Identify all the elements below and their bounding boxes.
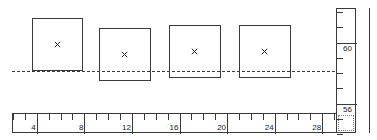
v-ruler-minor-tick — [337, 134, 343, 135]
h-ruler-minor-tick — [25, 114, 26, 120]
h-ruler-minor-tick — [287, 114, 288, 120]
h-ruler-minor-tick — [144, 114, 145, 120]
vertical-ruler-outer-edge — [369, 8, 370, 133]
h-ruler-minor-tick — [156, 114, 157, 120]
box-4-center-marker — [261, 48, 268, 55]
ruler-corner-box — [338, 115, 354, 131]
h-ruler-major-tick — [37, 114, 38, 134]
v-ruler-minor-tick — [337, 12, 343, 13]
h-ruler-minor-tick — [72, 114, 73, 120]
h-ruler-tick-label: 12 — [109, 123, 131, 132]
v-ruler-minor-tick — [337, 73, 343, 74]
h-ruler-major-tick — [84, 114, 85, 134]
v-ruler-tick-label: 56 — [343, 105, 352, 114]
h-ruler-minor-tick — [49, 114, 50, 120]
v-ruler-minor-tick — [337, 27, 343, 28]
h-ruler-minor-tick — [191, 114, 192, 120]
v-ruler-tick-label: 60 — [343, 44, 352, 53]
h-ruler-minor-tick — [13, 114, 14, 120]
box-2-center-marker — [121, 51, 128, 58]
h-ruler-minor-tick — [96, 114, 97, 120]
reference-line-dashed — [12, 71, 345, 72]
h-ruler-minor-tick — [108, 114, 109, 120]
h-ruler-tick-label: 28 — [299, 123, 321, 132]
box-1-center-marker — [54, 41, 61, 48]
h-ruler-tick-label: 4 — [14, 123, 36, 132]
h-ruler-minor-tick — [334, 114, 335, 120]
h-ruler-minor-tick — [168, 114, 169, 120]
box-3-center-marker — [191, 48, 198, 55]
h-ruler-major-tick — [322, 114, 323, 134]
h-ruler-minor-tick — [263, 114, 264, 120]
h-ruler-tick-label: 24 — [252, 123, 274, 132]
h-ruler-tick-label: 20 — [204, 123, 226, 132]
horizontal-ruler[interactable]: 481216202428 — [12, 113, 345, 133]
measurement-diagram: 481216202428 5660 — [0, 0, 377, 140]
h-ruler-minor-tick — [251, 114, 252, 120]
v-ruler-minor-tick — [337, 58, 343, 59]
h-ruler-major-tick — [132, 114, 133, 134]
h-ruler-minor-tick — [239, 114, 240, 120]
h-ruler-major-tick — [227, 114, 228, 134]
h-ruler-tick-label: 8 — [61, 123, 83, 132]
h-ruler-minor-tick — [215, 114, 216, 120]
h-ruler-minor-tick — [298, 114, 299, 120]
h-ruler-minor-tick — [310, 114, 311, 120]
h-ruler-minor-tick — [120, 114, 121, 120]
h-ruler-major-tick — [180, 114, 181, 134]
h-ruler-tick-label: 16 — [157, 123, 179, 132]
h-ruler-major-tick — [275, 114, 276, 134]
h-ruler-minor-tick — [203, 114, 204, 120]
h-ruler-minor-tick — [61, 114, 62, 120]
v-ruler-minor-tick — [337, 88, 343, 89]
